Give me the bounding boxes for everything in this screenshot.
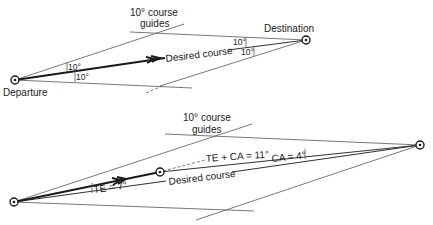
actual-track-line: [14, 172, 160, 202]
destination-point-icon: [302, 36, 310, 44]
departure-point-icon: [10, 198, 18, 206]
te-label: TE = 7°: [93, 179, 128, 195]
destination-upper-guide: [165, 134, 420, 145]
guides-label-line2: guides: [192, 124, 221, 135]
angle-destination-upper: 10°: [233, 37, 246, 47]
desired-course-label: Desired course: [168, 168, 237, 187]
angle-destination-lower: 10°: [241, 47, 254, 57]
departure-upper-guide: [15, 24, 184, 80]
destination-lower-guide-dashed: [146, 86, 162, 93]
guides-label-line1: 10° course: [130, 7, 178, 18]
destination-label: Destination: [264, 23, 314, 34]
desired-course-line: [15, 58, 165, 80]
guides-label-line1: 10° course: [183, 112, 231, 123]
departure-lower-guide: [14, 202, 254, 211]
course-guides-diagram: Desired course 10° 10° 10° 10° Departure…: [0, 0, 433, 225]
departure-label: Departure: [3, 87, 48, 98]
intermediate-point-icon: [156, 168, 164, 176]
departure-point-icon: [11, 76, 19, 84]
angle-departure-upper: 10°: [68, 62, 81, 72]
top-diagram: Desired course 10° 10° 10° 10° Departure…: [3, 7, 314, 98]
double-arrowhead-icon: [146, 56, 160, 63]
angle-departure-lower: 10°: [76, 72, 89, 82]
desired-course-label: Desired course: [165, 45, 234, 64]
destination-point-icon: [416, 141, 424, 149]
desired-course-line: [14, 181, 166, 202]
guides-label-line2: guides: [140, 18, 169, 29]
bottom-diagram: Desired course TE = 7° TE + CA = 11° CA …: [10, 112, 424, 220]
